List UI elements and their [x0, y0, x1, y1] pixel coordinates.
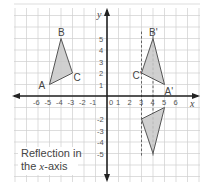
x-tick-label: -1 [90, 98, 97, 107]
y-tick-label: 5 [99, 35, 103, 44]
x-axis-arrow-left-icon [12, 93, 20, 99]
y-axis-arrow-up-icon [104, 8, 110, 16]
x-tick-label: -4 [56, 98, 63, 107]
x-tick-label: 1 [116, 98, 120, 107]
y-tick-label: 1 [99, 81, 103, 90]
y-tick-label: -5 [97, 150, 104, 159]
y-tick-label: -2 [97, 115, 104, 124]
x-tick-label: 0 [109, 98, 113, 107]
y-tick-label: 4 [99, 46, 103, 55]
caption-line-2: the x-axis [21, 160, 68, 172]
x-tick-label: 6 [174, 98, 178, 107]
caption-prefix: the [21, 160, 39, 172]
x-tick-label: 4 [151, 98, 155, 107]
y-tick-label: -3 [97, 127, 104, 136]
vertex-label-a-prime: A' [165, 86, 174, 97]
y-tick-label: -4 [97, 138, 104, 147]
x-tick-label: 5 [162, 98, 166, 107]
y-axis-arrow-down-icon [104, 174, 110, 182]
x-tick-label: -6 [33, 98, 40, 107]
x-tick-label: 3 [139, 98, 143, 107]
x-axis-label: x [189, 98, 195, 109]
x-tick-label: -3 [68, 98, 75, 107]
caption-suffix: -axis [44, 160, 68, 172]
y-tick-label: 3 [99, 58, 103, 67]
x-tick-label: -5 [45, 98, 52, 107]
vertex-label-c: C [74, 72, 81, 83]
caption-line-1: Reflection in [21, 147, 82, 159]
coordinate-grid-diagram: y x -6-5-4-3-2-1012345612345-2-3-4-5 ABC… [0, 0, 208, 187]
vertex-label-a: A [39, 80, 46, 91]
y-axis-label: y [96, 9, 102, 20]
y-tick-label: 2 [99, 69, 103, 78]
x-tick-label: 2 [128, 98, 132, 107]
x-tick-label: -2 [79, 98, 86, 107]
vertex-label-c-prime: C' [133, 70, 142, 81]
vertex-label-b-prime: B' [149, 27, 158, 38]
vertex-label-b: B [58, 27, 65, 38]
